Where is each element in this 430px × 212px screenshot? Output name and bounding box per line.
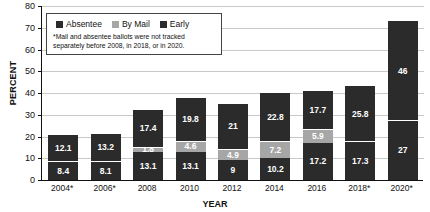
legend-footnote: *Mail and absentee ballots were not trac… <box>52 32 216 50</box>
bar-value-label: 19.8 <box>182 115 199 124</box>
legend-label: By Mail <box>122 19 150 29</box>
bar-value-label: 9 <box>231 166 236 175</box>
bar-value-label: 22.8 <box>267 113 284 122</box>
bar-value-label: 12.1 <box>55 144 72 153</box>
x-axis-tick-label: 2020* <box>387 183 417 193</box>
legend-item[interactable]: By Mail <box>112 19 150 29</box>
bar-value-label: 46 <box>398 67 407 76</box>
bar-value-label: 10.2 <box>267 165 284 174</box>
bar-segment-early[interactable]: 21 <box>218 104 248 150</box>
bar-segment-early[interactable]: 13.2 <box>91 134 121 163</box>
bar-segment-early[interactable]: 17.7 <box>303 91 333 129</box>
bar-segment-absentee[interactable]: 17.3 <box>345 142 375 180</box>
x-axis-tick-label: 2014 <box>259 183 289 193</box>
bar-segment-absentee[interactable]: 13.1 <box>133 152 163 180</box>
bar-value-label: 17.2 <box>310 157 327 166</box>
bar-value-label: 13.2 <box>97 143 114 152</box>
bar-column[interactable]: 4627 <box>388 6 418 180</box>
bar-value-label: 7.2 <box>269 146 281 155</box>
bar-segment-by-mail[interactable]: 4.9 <box>218 150 248 161</box>
bar-segment-absentee[interactable]: 17.2 <box>303 143 333 180</box>
bar-segment-early[interactable]: 19.8 <box>176 98 206 141</box>
bar-value-label: 8.1 <box>100 167 112 176</box>
legend: AbsenteeBy MailEarly *Mail and absentee … <box>46 13 222 55</box>
x-axis-tick-label: 2016 <box>302 183 332 193</box>
x-axis-title: YEAR <box>0 199 430 209</box>
x-axis-tick-labels: 2004*2006*200820102012201420162018*2020* <box>41 183 423 193</box>
y-axis-tick-label: 50 <box>25 66 35 76</box>
bar-segment-absentee[interactable]: 13.1 <box>176 152 206 180</box>
bar-value-label: 21 <box>228 122 237 131</box>
y-axis-tick-label: 80 <box>25 1 35 11</box>
x-axis-tick-label: 2008 <box>132 183 162 193</box>
bar-column[interactable]: 25.817.3 <box>345 6 375 180</box>
bar-value-label: 17.3 <box>352 157 369 166</box>
bar-value-label: 25.8 <box>352 110 369 119</box>
bar-value-label: 17.4 <box>140 124 157 133</box>
bar-value-label: 4.9 <box>227 151 239 160</box>
bar-column[interactable]: 22.87.210.2 <box>260 6 290 180</box>
y-axis-tick-label: 0 <box>30 175 35 185</box>
x-axis-tick-label: 2012 <box>217 183 247 193</box>
bar-segment-absentee[interactable]: 10.2 <box>260 158 290 180</box>
bar-column[interactable]: 214.99 <box>218 6 248 180</box>
bar-segment-by-mail[interactable]: 5.9 <box>303 130 333 143</box>
bar-value-label: 13.1 <box>140 162 157 171</box>
bar-segment-early[interactable]: 17.4 <box>133 110 163 148</box>
legend-swatch-icon <box>56 21 63 28</box>
y-axis-tick-label: 70 <box>25 23 35 33</box>
bar-segment-early[interactable]: 46 <box>388 21 418 121</box>
bar-segment-absentee[interactable]: 8.4 <box>48 162 78 180</box>
bar-value-label: 13.1 <box>182 162 199 171</box>
bar-segment-by-mail[interactable]: 4.6 <box>176 142 206 152</box>
legend-label: Early <box>170 19 189 29</box>
bar-value-label: 17.7 <box>310 106 327 115</box>
y-axis-tick-label: 60 <box>25 45 35 55</box>
y-axis-tick-label: 30 <box>25 110 35 120</box>
bar-value-label: 4.6 <box>185 142 197 151</box>
y-axis-tick-label: 40 <box>25 88 35 98</box>
bar-segment-early[interactable]: 12.1 <box>48 135 78 161</box>
bar-value-label: 5.9 <box>312 132 324 141</box>
bar-value-label: 27 <box>398 146 407 155</box>
chart-root: PERCENT 01020304050607080 12.18.413.28.1… <box>0 0 430 212</box>
bar-segment-early[interactable]: 22.8 <box>260 93 290 143</box>
y-axis-tick <box>38 180 42 181</box>
x-axis-tick-label: 2004* <box>47 183 77 193</box>
y-axis-title: PERCENT <box>8 48 18 118</box>
legend-item[interactable]: Early <box>160 19 189 29</box>
legend-swatch-icon <box>160 21 167 28</box>
bar-value-label: 8.4 <box>57 167 69 176</box>
legend-items: AbsenteeBy MailEarly <box>52 18 216 32</box>
bar-segment-absentee[interactable]: 8.1 <box>91 162 121 180</box>
bar-column[interactable]: 17.75.917.2 <box>303 6 333 180</box>
bar-segment-absentee[interactable]: 27 <box>388 121 418 180</box>
y-axis-tick-label: 20 <box>25 132 35 142</box>
legend-item[interactable]: Absentee <box>56 19 102 29</box>
y-axis-tick-label: 10 <box>25 153 35 163</box>
bar-segment-absentee[interactable]: 9 <box>218 160 248 180</box>
x-axis-tick-label: 2006* <box>90 183 120 193</box>
bar-segment-by-mail[interactable]: 7.2 <box>260 142 290 158</box>
x-axis-tick-label: 2010 <box>175 183 205 193</box>
bar-segment-early[interactable]: 25.8 <box>345 86 375 142</box>
x-axis-tick-label: 2018* <box>344 183 374 193</box>
legend-swatch-icon <box>112 21 119 28</box>
legend-label: Absentee <box>66 19 102 29</box>
